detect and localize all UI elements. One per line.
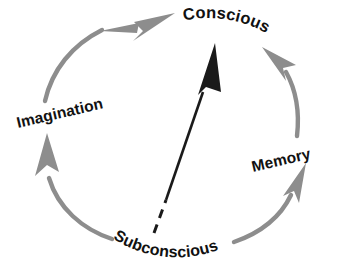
arrowhead-imagination [35, 133, 59, 176]
arc-joint-imagination-conscious [100, 23, 139, 33]
arc-line-memory-conscious [286, 72, 298, 136]
connection-memory-to-conscious [262, 47, 298, 136]
connection-subconscious-to-conscious-direct [154, 43, 221, 233]
arc-line-subconscious-imagination [49, 178, 112, 239]
node-label-conscious: Conscious [182, 3, 274, 36]
connection-subconscious-to-imagination [35, 133, 112, 239]
arrowhead-conscious-right [262, 47, 296, 81]
dashed-tail-segment [154, 200, 166, 233]
solid-shaft-segment [166, 92, 203, 200]
arc-line-subconscious-memory [234, 195, 291, 242]
arrowhead-memory [283, 163, 306, 203]
arrowhead-conscious-direct [198, 43, 221, 95]
node-label-subconscious: Subconscious [111, 227, 220, 261]
diagram-canvas: Conscious Imagination Memory Subconsciou… [0, 0, 343, 275]
consciousness-cycle-diagram: Conscious Imagination Memory Subconsciou… [0, 0, 343, 275]
connection-imagination-to-conscious [45, 13, 175, 101]
arc-line-imagination-conscious [45, 30, 102, 101]
node-label-subconscious-text: Subconscious [111, 227, 220, 261]
arrowhead-conscious-left [133, 13, 175, 41]
node-label-imagination: Imagination [15, 95, 105, 131]
node-label-conscious-text: Conscious [182, 3, 274, 36]
connection-subconscious-to-memory [234, 163, 306, 242]
